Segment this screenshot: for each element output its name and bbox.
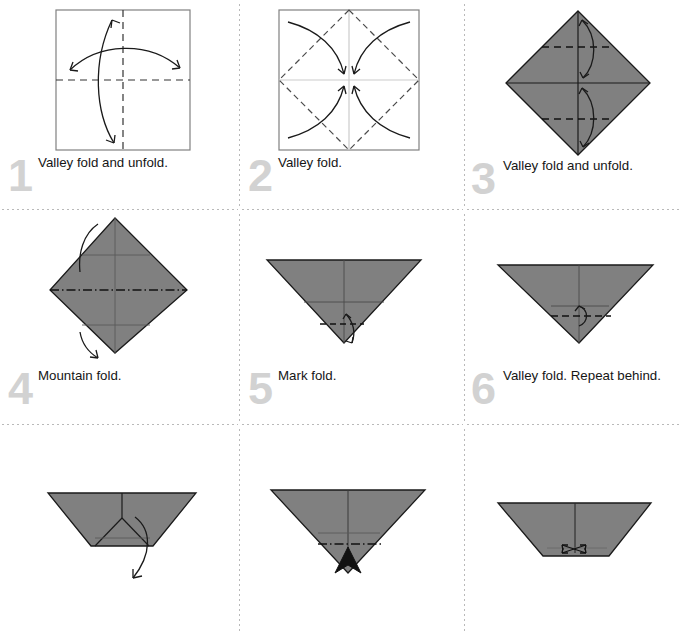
step-cell-9: 9 Valley fold and unfold. Repeat behind. — [465, 425, 684, 638]
step-cell-1: 1 Valley fold and unfold. — [0, 0, 240, 210]
steps-grid: 1 Valley fold and unfold. — [0, 0, 684, 638]
paper-triangle — [498, 265, 653, 343]
step-cell-4: 4 Mountain fold. — [0, 210, 240, 425]
step-6-caption-line-1: Valley fold. Repeat behind. — [473, 368, 678, 385]
step-1-caption-line-1: Valley fold and unfold. — [8, 155, 234, 172]
step-2-caption-line-1: Valley fold. — [248, 155, 459, 172]
step-3-figure — [465, 0, 684, 163]
step-2-figure — [240, 0, 465, 160]
step-number-4: 4 — [8, 370, 32, 408]
step-8-figure — [240, 455, 465, 585]
step-9-figure — [465, 475, 684, 585]
step-cell-5: 5 Mark fold. — [240, 210, 465, 425]
step-cell-7: 7 Unfold. Repeat behind. — [0, 425, 240, 638]
step-2-caption-block: 2 Valley fold. — [240, 155, 465, 172]
step-3-caption-line-1: Valley fold and unfold. — [473, 158, 678, 175]
step-number-1: 1 — [8, 157, 32, 195]
step-number-6: 6 — [471, 370, 495, 408]
step-7-figure — [0, 460, 240, 585]
step-3-caption-block: 3 Valley fold and unfold. — [465, 158, 684, 175]
step-4-caption-block: 4 Mountain fold. — [0, 368, 240, 385]
paper-diamond — [50, 218, 187, 353]
step-6-caption-block: 6 Valley fold. Repeat behind. — [465, 368, 684, 385]
step-number-5: 5 — [248, 370, 272, 408]
step-number-3: 3 — [471, 160, 495, 198]
step-6-figure — [465, 210, 684, 360]
step-cell-3: 3 Valley fold and unfold. — [465, 0, 684, 210]
step-5-figure — [240, 210, 465, 360]
origami-instruction-sheet: 1 Valley fold and unfold. — [0, 0, 684, 638]
step-5-caption-line-1: Mark fold. — [248, 368, 459, 385]
step-1-caption-block: 1 Valley fold and unfold. — [0, 155, 240, 172]
step-4-caption-line-1: Mountain fold. — [8, 368, 234, 385]
step-cell-2: 2 Valley fold. — [240, 0, 465, 210]
step-cell-6: 6 Valley fold. Repeat behind. — [465, 210, 684, 425]
step-cell-8: 8 Sink fold on the crease formed in step… — [240, 425, 465, 638]
step-number-2: 2 — [248, 157, 272, 195]
step-4-figure — [0, 210, 240, 360]
step-1-figure — [0, 0, 240, 160]
step-5-caption-block: 5 Mark fold. — [240, 368, 465, 385]
